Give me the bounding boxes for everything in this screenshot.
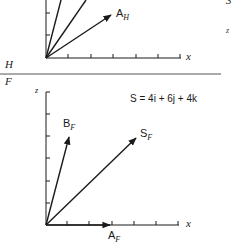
panel-label-f: F bbox=[5, 75, 12, 87]
bottom-panel-vectors bbox=[46, 137, 136, 225]
top-panel-vectors bbox=[46, 0, 111, 58]
vector-subscript: F bbox=[147, 133, 152, 142]
vector-subscript: F bbox=[115, 235, 120, 244]
right-edge-number: 3 bbox=[226, 0, 232, 6]
vector-a-f-label: AF bbox=[108, 229, 120, 244]
vector-subscript: F bbox=[70, 123, 75, 132]
vector-line bbox=[46, 0, 86, 58]
vector-subscript: H bbox=[123, 13, 129, 22]
right-edge-z-label: z bbox=[226, 26, 229, 35]
bottom-z-axis-label: z bbox=[35, 86, 38, 95]
panel-label-h: H bbox=[5, 58, 13, 70]
vector-diagram bbox=[0, 0, 233, 244]
vector-s-f-arrow bbox=[46, 138, 136, 225]
bottom-x-axis-label: x bbox=[186, 217, 191, 229]
equation-label: S = 4i + 6j + 4k bbox=[130, 93, 197, 104]
top-x-axis-label: x bbox=[186, 50, 191, 62]
vector-s-f-label: SF bbox=[140, 127, 152, 142]
vector-a-h-label: AH bbox=[116, 7, 129, 22]
vector-b-f-label: BF bbox=[63, 117, 75, 132]
